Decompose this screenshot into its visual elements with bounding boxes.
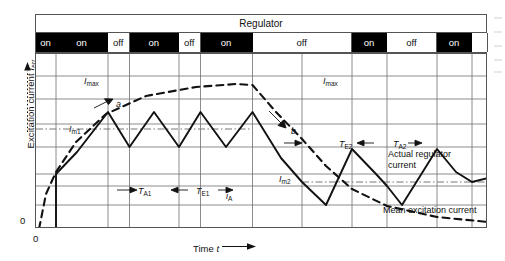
x-axis-label-text: Time — [193, 243, 214, 254]
regulator-title: Regulator — [239, 18, 282, 29]
state-segment-off-4: off — [179, 33, 201, 52]
annotation-i-a: iA — [226, 191, 232, 202]
plot-area: ImaxImaxIm1Im2iATA1TE1TE2TA2ab Actual re… — [35, 53, 487, 228]
annotation-i-max-right: Imax — [323, 76, 338, 87]
state-segment-on-7: on — [352, 33, 387, 52]
annotation-i-max-left: Imax — [84, 76, 99, 87]
y-axis-origin-tick: 0 — [20, 215, 25, 226]
state-segment-on-1: on — [56, 33, 108, 52]
state-segment-blank-10 — [472, 33, 488, 52]
state-band: ononoffonoffonoffonoffon — [35, 33, 487, 53]
annotation-curve-b: b — [291, 126, 296, 136]
state-segment-off-2: off — [108, 33, 130, 52]
x-axis-symbol: t — [216, 243, 219, 254]
regulator-header: Regulator — [35, 14, 487, 33]
x-axis-label: Time t — [193, 242, 256, 254]
state-segment-off-6: off — [253, 33, 353, 52]
annotation-t-a1: TA1 — [138, 186, 151, 197]
state-segment-off-8: off — [387, 33, 437, 52]
annotation-t-e1: TE1 — [196, 186, 209, 197]
annotation-t-e2: TE2 — [339, 139, 352, 150]
figure-root: Excitation current Ierr 0 0 Time t Regul… — [0, 0, 505, 261]
measure-arrows — [94, 99, 422, 193]
state-segment-on-9: on — [437, 33, 472, 52]
state-segment-on-5: on — [201, 33, 253, 52]
label-mean-excitation-current: Mean excitation current — [383, 205, 477, 216]
page-edge-marks — [493, 16, 503, 74]
plot-svg — [36, 54, 486, 227]
vertical-gridlines — [56, 54, 472, 227]
annotation-i-m1: Im1 — [69, 124, 81, 135]
annotation-curve-a: a — [116, 99, 121, 109]
annotation-i-m2: Im2 — [279, 174, 291, 185]
state-segment-on-3: on — [130, 33, 180, 52]
label-actual-regulator-current: Actual regulatorcurrent — [388, 149, 451, 170]
x-axis-origin-tick: 0 — [33, 233, 38, 244]
x-axis-arrow — [222, 242, 256, 251]
state-segment-on-0: on — [36, 33, 56, 52]
